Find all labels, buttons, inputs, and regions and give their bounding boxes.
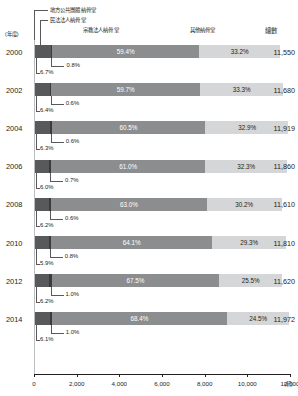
callout-stem-local-government [36,211,37,226]
row-year-label: 2008 [6,200,32,209]
callout-stem-local-government [36,325,37,340]
stacked-bar: 59.4%33.2% [34,45,280,58]
callout-stem-civil-law-corporation [51,58,52,66]
callout-stem-civil-law-corporation [51,287,52,295]
legend-leader-line-1 [34,10,48,11]
callout-label-local-government: 6.2% [40,222,53,228]
callout-label-civil-law-corporation: 1.0% [66,329,79,335]
bar-row: 200661.0%32.3%11,8606.0%0.7% [0,160,298,198]
x-axis-tick [162,374,163,377]
bar-segment-religious-corporation: 64.1% [51,236,212,249]
bar-segment-religious-corporation: 67.5% [52,274,219,287]
bar-segment-other: 30.2% [207,198,282,211]
bar-segment-religious-corporation: 59.4% [52,45,198,58]
callout-line-civil-law-corporation [51,142,64,143]
bar-row: 200059.4%33.2%11,5506.7%0.8% [0,45,298,83]
callout-label-civil-law-corporation: 0.8% [65,253,78,259]
row-year-label: 2014 [6,315,32,324]
row-total-value: 11,860 [274,162,295,171]
callout-label-civil-law-corporation: 0.6% [66,100,79,106]
callout-line-civil-law-corporation [51,333,64,334]
callout-stem-civil-law-corporation [51,325,52,333]
callout-stem-local-government [36,173,37,188]
callout-stem-local-government [36,58,37,73]
callout-label-civil-law-corporation: 0.7% [65,177,78,183]
callout-line-civil-law-corporation [50,219,63,220]
x-axis-tick [247,374,248,377]
row-year-label: 2004 [6,124,32,133]
x-axis-tick [119,374,120,377]
legend-label-religious-corporation: 宗教法人納骨堂 [83,26,119,34]
bar-segment-religious-corporation: 60.5% [52,121,206,134]
legend-label-civil-law-corporation: 民法法人納骨堂 [50,16,86,24]
x-axis-tick [77,374,78,377]
row-total-value: 11,972 [274,315,295,324]
callout-label-local-government: 6.3% [40,145,53,151]
stacked-bar: 64.1%29.3% [34,236,286,249]
callout-stem-civil-law-corporation [51,96,52,104]
x-axis-tick [290,374,291,377]
callout-label-local-government: 6.2% [40,298,53,304]
bar-segment-religious-corporation: 63.0% [51,198,207,211]
bar-row: 200863.0%30.2%11,6106.2%0.6% [0,198,298,236]
x-axis-tick-label: 6,000 [148,380,176,387]
bar-segment-local-government [34,121,50,134]
callout-label-local-government: 6.0% [40,184,53,190]
callout-label-civil-law-corporation: 0.8% [66,62,79,68]
stacked-bar: 67.5%25.5% [34,274,282,287]
row-total-value: 11,550 [274,48,295,57]
row-total-value: 11,610 [274,200,295,209]
bar-segment-local-government [34,198,49,211]
stacked-bar: 61.0%32.3% [34,160,287,173]
x-axis-tick-label: 0 [20,380,48,387]
bar-segment-other: 33.3% [200,83,283,96]
bar-segment-other: 25.5% [219,274,282,287]
x-axis-tick-label: 4,000 [105,380,133,387]
bar-row: 201267.5%25.5%11,6206.2%1.0% [0,274,298,312]
legend-label-other: 其他納骨堂 [190,26,216,34]
year-axis-label: (年度) [5,30,19,38]
callout-label-local-government: 6.4% [40,107,53,113]
stacked-bar-chart: 地方公共團體納骨堂 民法法人納骨堂 宗教法人納骨堂 其他納骨堂 總數 (年度) … [0,0,298,396]
x-axis-tick-label: 8,000 [191,380,219,387]
row-total-value: 11,919 [274,124,295,133]
x-axis-tick [34,374,35,377]
callout-stem-civil-law-corporation [51,134,52,142]
callout-stem-local-government [36,96,37,111]
callout-stem-civil-law-corporation [50,211,51,219]
bar-row: 200259.7%33.3%11,6806.4%0.6% [0,83,298,121]
callout-line-civil-law-corporation [51,66,64,67]
row-year-label: 2002 [6,86,32,95]
row-year-label: 2012 [6,277,32,286]
bar-segment-religious-corporation: 68.4% [52,312,227,325]
bar-segment-other: 33.2% [199,45,281,58]
row-year-label: 2010 [6,239,32,248]
x-axis-tick-label: 10,000 [233,380,261,387]
row-total-value: 11,810 [274,239,295,248]
row-year-label: 2006 [6,162,32,171]
legend-label-local-government: 地方公共團體納骨堂 [50,6,96,14]
callout-label-local-government: 6.1% [40,336,53,342]
stacked-bar: 63.0%30.2% [34,198,282,211]
bar-segment-religious-corporation: 59.7% [51,83,200,96]
callout-label-civil-law-corporation: 1.0% [66,291,79,297]
stacked-bar: 60.5%32.9% [34,121,288,134]
callout-line-civil-law-corporation [50,181,63,182]
callout-label-civil-law-corporation: 0.6% [66,138,79,144]
bar-segment-local-government [34,312,50,325]
bar-segment-local-government [34,274,49,287]
callout-line-civil-law-corporation [51,295,64,296]
x-axis-tick-label: 2,000 [63,380,91,387]
stacked-bar: 59.7%33.3% [34,83,283,96]
bar-segment-religious-corporation: 61.0% [51,160,205,173]
legend-leader-line-2 [40,20,48,21]
row-total-value: 11,680 [274,86,295,95]
row-total-value: 11,620 [274,277,295,286]
column-header-total: 總數 [265,26,277,35]
bar-row: 201064.1%29.3%11,8105.9%0.8% [0,236,298,274]
row-year-label: 2000 [6,48,32,57]
bar-row: 200460.5%32.9%11,9196.3%0.6% [0,121,298,159]
bar-row: 201468.4%24.5%11,9726.1%1.0% [0,312,298,350]
callout-stem-civil-law-corporation [50,249,51,257]
callout-label-civil-law-corporation: 0.6% [65,215,78,221]
